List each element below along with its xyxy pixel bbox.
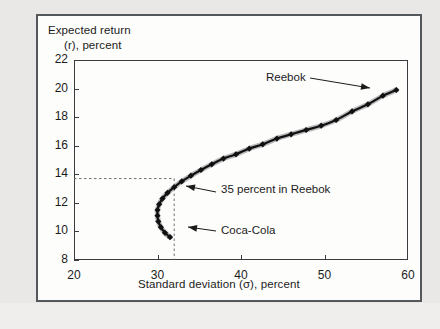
frontier-curve [157,90,396,237]
frontier-data-points [154,87,399,240]
arrow-reebok-leader [310,78,370,88]
annotation-coca-cola: Coca-Cola [221,224,275,236]
annotation-reebok: Reebok [266,71,306,83]
figure-frame: Expected return (r), percent 81012141618… [36,14,422,302]
frontier-curve-halo [157,90,396,237]
arrow-coca-cola-arrowhead [188,225,197,232]
efficient-frontier-chart: Expected return (r), percent 81012141618… [38,16,424,304]
arrow-reebok-arrowhead [361,83,370,90]
frontier-curve-line [157,90,396,237]
annotation-arrows [186,78,370,232]
x-axis-title: Standard deviation (σ), percent [138,278,300,290]
arrow-35-percent-arrowhead [186,184,195,191]
chart-plot-overlay [38,16,424,304]
annotation-35-percent-reebok: 35 percent in Reebok [221,183,330,195]
